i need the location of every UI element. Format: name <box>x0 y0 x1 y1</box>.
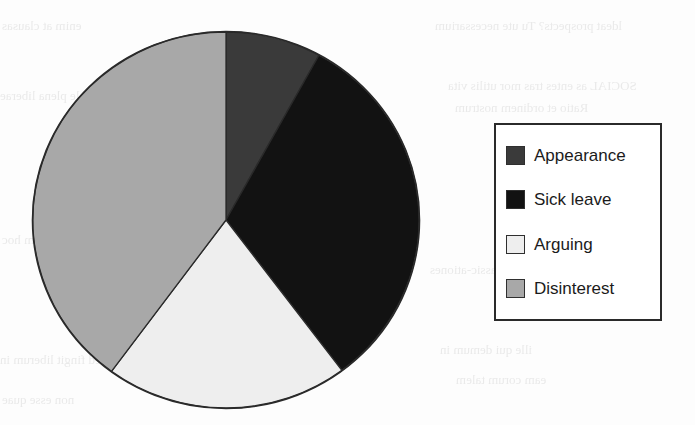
legend-swatch-icon <box>506 279 525 298</box>
scanned-page: ldeat prospects? Tu ute necessarium enim… <box>0 0 695 425</box>
legend-swatch-icon <box>506 146 525 165</box>
pie-chart-figure: Appearance Sick leave Arguing Disinteres… <box>0 0 695 425</box>
legend-item-disinterest[interactable]: Disinterest <box>506 276 660 302</box>
legend-item-appearance[interactable]: Appearance <box>506 142 660 168</box>
legend-swatch-icon <box>506 235 525 254</box>
legend-item-label: Arguing <box>534 236 593 253</box>
pie-chart <box>31 30 421 410</box>
legend-item-label: Sick leave <box>534 191 611 208</box>
chart-legend: Appearance Sick leave Arguing Disinteres… <box>494 123 662 321</box>
legend-item-arguing[interactable]: Arguing <box>506 231 660 257</box>
legend-swatch-icon <box>506 190 525 209</box>
legend-item-sick-leave[interactable]: Sick leave <box>506 187 660 213</box>
pie-chart-svg <box>31 30 421 410</box>
legend-item-label: Disinterest <box>534 280 614 297</box>
legend-item-label: Appearance <box>534 147 626 164</box>
